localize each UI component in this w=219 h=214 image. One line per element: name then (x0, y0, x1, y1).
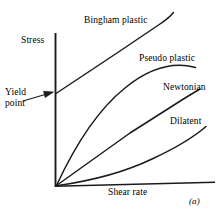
curve-label-pseudo-plastic: Pseudo plastic (139, 53, 195, 64)
yield-point-annotation: Yield point (5, 87, 26, 109)
curve-label-dilatent: Dilatent (170, 116, 201, 127)
y-axis-label: Stress (21, 35, 44, 46)
figure-caption: (a) (189, 196, 200, 207)
plot-area (0, 0, 219, 214)
x-axis (55, 182, 215, 186)
curve-newtonian (57, 89, 201, 186)
yield-point-line2: point (5, 98, 26, 109)
x-axis-label: Shear rate (108, 187, 147, 198)
yield-point-line1: Yield (5, 87, 26, 98)
curve-label-bingham-plastic: Bingham plastic (84, 15, 148, 26)
rheology-figure: Stress Shear rate Bingham plastic Pseudo… (0, 0, 219, 214)
curve-dilatent (57, 127, 207, 186)
yield-point-arrow (23, 91, 54, 101)
curve-label-newtonian: Newtonian (163, 82, 206, 93)
